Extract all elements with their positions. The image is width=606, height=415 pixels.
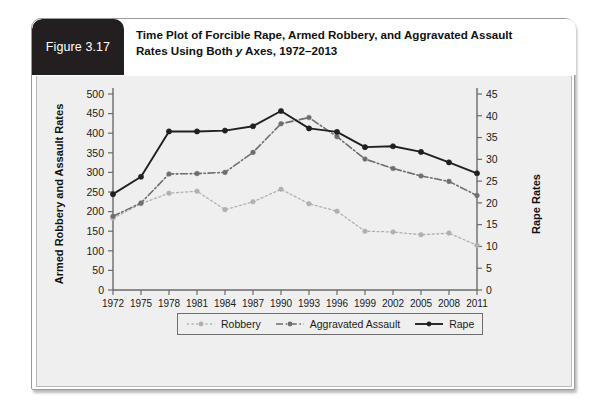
data-point <box>307 201 312 206</box>
svg-text:15: 15 <box>486 218 498 230</box>
figure-title: Time Plot of Forcible Rape, Armed Robber… <box>136 27 564 60</box>
data-point <box>362 145 367 150</box>
svg-text:250: 250 <box>86 186 104 198</box>
svg-text:1984: 1984 <box>214 298 237 309</box>
legend-item-robbery: Robbery <box>186 318 261 330</box>
data-point <box>223 207 228 212</box>
data-point <box>167 172 172 177</box>
svg-text:5: 5 <box>486 262 492 274</box>
svg-text:2005: 2005 <box>410 298 433 309</box>
data-point <box>110 192 115 197</box>
svg-text:300: 300 <box>86 166 104 178</box>
legend-swatch-dashdot <box>275 318 305 330</box>
data-point <box>390 144 395 149</box>
svg-text:45: 45 <box>486 88 498 100</box>
svg-text:450: 450 <box>86 107 104 119</box>
data-point <box>363 229 368 234</box>
line-chart: 0501001502002503003504004505000510152025… <box>37 76 573 387</box>
svg-text:1981: 1981 <box>186 298 209 309</box>
svg-text:1987: 1987 <box>242 298 265 309</box>
svg-text:1999: 1999 <box>354 298 377 309</box>
data-point <box>222 128 227 133</box>
chart-panel: Armed Robbery and Assault Rates Rape Rat… <box>36 76 572 387</box>
data-point <box>251 150 256 155</box>
svg-text:35: 35 <box>486 131 498 143</box>
data-point <box>166 129 171 134</box>
legend-label: Robbery <box>221 318 261 330</box>
figure-number-tab: Figure 3.17 <box>32 19 124 75</box>
legend-label: Rape <box>449 318 474 330</box>
figure-screenshot: Figure 3.17 Time Plot of Forcible Rape, … <box>0 0 606 415</box>
svg-text:1993: 1993 <box>298 298 321 309</box>
figure-title-line2-post: Axes, 1972–2013 <box>242 44 337 57</box>
svg-text:1975: 1975 <box>130 298 153 309</box>
data-point <box>335 209 340 214</box>
figure-card: Figure 3.17 Time Plot of Forcible Rape, … <box>31 18 575 390</box>
legend-item-rape: Rape <box>414 318 474 330</box>
svg-text:150: 150 <box>86 225 104 237</box>
data-point <box>335 134 340 139</box>
data-point <box>419 174 424 179</box>
svg-text:2008: 2008 <box>438 298 461 309</box>
data-point <box>306 126 311 131</box>
data-point <box>475 193 480 198</box>
data-point <box>334 129 339 134</box>
data-point <box>195 189 200 194</box>
legend-item-aggravated-assault: Aggravated Assault <box>275 318 400 330</box>
svg-text:20: 20 <box>486 197 498 209</box>
svg-text:1978: 1978 <box>158 298 181 309</box>
data-point <box>363 157 368 162</box>
data-point <box>447 179 452 184</box>
data-point <box>419 232 424 237</box>
svg-text:100: 100 <box>86 245 104 257</box>
svg-text:0: 0 <box>98 284 104 296</box>
legend-swatch-solid <box>414 318 444 330</box>
figure-header: Figure 3.17 Time Plot of Forcible Rape, … <box>32 19 576 75</box>
data-point <box>139 201 144 206</box>
data-point <box>278 108 283 113</box>
data-point <box>474 171 479 176</box>
svg-text:1990: 1990 <box>270 298 293 309</box>
data-point <box>307 115 312 120</box>
data-point <box>447 231 452 236</box>
svg-text:2002: 2002 <box>382 298 405 309</box>
plot-area: Armed Robbery and Assault Rates Rape Rat… <box>37 76 573 387</box>
data-point <box>194 129 199 134</box>
data-point <box>251 200 256 205</box>
svg-text:500: 500 <box>86 88 104 100</box>
svg-text:50: 50 <box>92 264 104 276</box>
legend-swatch-dotted <box>186 318 216 330</box>
svg-text:2011: 2011 <box>466 298 488 309</box>
data-point <box>279 121 284 126</box>
data-point <box>195 171 200 176</box>
data-point <box>475 243 480 248</box>
figure-title-line2-pre: Rates Using Both <box>136 44 236 57</box>
svg-text:1996: 1996 <box>326 298 349 309</box>
data-point <box>391 166 396 171</box>
data-point <box>250 124 255 129</box>
svg-text:30: 30 <box>486 153 498 165</box>
figure-title-line1: Time Plot of Forcible Rape, Armed Robber… <box>136 28 512 41</box>
data-point <box>391 230 396 235</box>
svg-text:10: 10 <box>486 240 498 252</box>
svg-text:400: 400 <box>86 127 104 139</box>
svg-text:1972: 1972 <box>102 298 125 309</box>
data-point <box>279 187 284 192</box>
chart-legend: RobberyAggravated AssaultRape <box>177 313 483 335</box>
svg-text:40: 40 <box>486 110 498 122</box>
data-point <box>446 160 451 165</box>
data-point <box>138 174 143 179</box>
data-point <box>223 170 228 175</box>
svg-text:350: 350 <box>86 147 104 159</box>
data-point <box>111 214 116 219</box>
data-point <box>167 191 172 196</box>
legend-label: Aggravated Assault <box>310 318 400 330</box>
data-point <box>418 149 423 154</box>
svg-text:0: 0 <box>486 284 492 296</box>
figure-number-label: Figure 3.17 <box>46 40 110 54</box>
svg-text:200: 200 <box>86 205 104 217</box>
svg-text:25: 25 <box>486 175 498 187</box>
